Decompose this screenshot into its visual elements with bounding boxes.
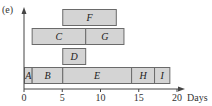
task-label: B [44,70,50,81]
task-bar-g: G [86,29,124,45]
task-label: H [138,70,147,81]
task-bar-h: H [132,68,155,84]
task-bar-d: D [63,49,86,65]
x-axis-arrow-icon [178,87,185,92]
task-bar-e: E [63,68,132,84]
task-label: C [56,31,63,42]
task-bar-f: F [63,10,117,26]
panel-label: (e) [2,4,13,16]
task-label: A [24,70,32,81]
task-label: E [93,70,100,81]
task-bar-i: I [155,68,170,84]
task-bar-b: B [32,68,63,84]
x-tick-label: 5 [60,92,65,103]
task-label: G [101,31,108,42]
task-label: F [85,12,93,23]
task-label: D [70,51,79,62]
x-axis-label: Days [187,92,208,103]
y-axis-arrow-icon [22,7,27,14]
x-tick-label: 10 [96,92,106,103]
x-tick-label: 15 [134,92,144,103]
x-tick-label: 0 [22,92,27,103]
x-axis-ticks: 05101520 [22,89,183,103]
task-bars: ABEHIDCGF [24,10,170,84]
task-bar-a: A [24,68,32,84]
gantt-chart: (e) ABEHIDCGF 05101520 Days [0,0,212,106]
task-label: I [160,70,165,81]
x-tick-label: 20 [172,92,182,103]
task-bar-c: C [32,29,86,45]
